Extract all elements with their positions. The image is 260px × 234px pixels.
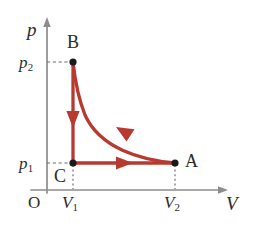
point-label-c: C xyxy=(54,167,66,185)
x-tick-v2-base: V xyxy=(164,193,174,212)
x-tick-v2-sub: 2 xyxy=(175,201,180,213)
y-tick-p2-sub: 2 xyxy=(28,61,33,73)
arrow-c-to-a-right xyxy=(116,156,133,169)
arrow-b-to-c-down xyxy=(66,111,79,128)
point-label-b: B xyxy=(67,33,79,51)
x-tick-label-v2: V2 xyxy=(164,194,180,211)
x-tick-v1-base: V xyxy=(62,193,72,212)
guide-line-group xyxy=(47,62,175,189)
x-tick-label-v1: V1 xyxy=(62,194,78,211)
y-tick-p1-sub: 1 xyxy=(28,162,33,174)
y-tick-label-p2: p2 xyxy=(19,54,33,71)
direction-arrow-group xyxy=(66,111,134,170)
x-tick-v1-sub: 1 xyxy=(73,201,78,213)
y-axis-arrowhead xyxy=(43,17,50,27)
point-marker-b xyxy=(69,58,76,65)
cycle-path-group xyxy=(73,62,175,163)
arrow-a-to-b-upleft xyxy=(116,127,135,142)
x-axis-label: V xyxy=(226,194,238,213)
y-tick-label-p1: p1 xyxy=(19,155,33,172)
point-marker-a xyxy=(171,159,178,166)
pv-diagram-figure: p V O p2 p1 V1 V2 A B C xyxy=(0,0,260,234)
point-label-a: A xyxy=(185,152,198,170)
process-a-to-b-curve xyxy=(73,62,175,163)
point-marker-c xyxy=(69,159,76,166)
y-axis-label: p xyxy=(27,20,37,39)
origin-label: O xyxy=(28,194,40,211)
y-tick-p2-base: p xyxy=(19,53,28,72)
y-tick-p1-base: p xyxy=(19,154,28,173)
